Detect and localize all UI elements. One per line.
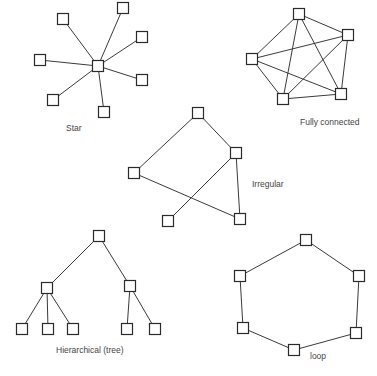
loop-label: loop xyxy=(310,352,326,361)
node-square xyxy=(137,32,148,43)
edge xyxy=(47,288,73,329)
node-square xyxy=(289,345,300,356)
edge xyxy=(22,288,47,329)
edge xyxy=(47,236,99,288)
node-square xyxy=(238,323,249,334)
edge xyxy=(294,333,356,350)
node-square xyxy=(94,231,105,242)
node-square xyxy=(58,14,69,25)
edge xyxy=(306,240,359,276)
node-square xyxy=(294,9,305,20)
node-square xyxy=(354,271,365,282)
edge xyxy=(168,153,236,221)
node-square xyxy=(336,89,347,100)
edge xyxy=(134,113,198,173)
irregular-label: Irregular xyxy=(252,180,284,189)
edge xyxy=(243,328,294,350)
edge xyxy=(53,66,98,100)
node-square xyxy=(125,281,136,292)
node-square xyxy=(247,54,258,65)
node-square xyxy=(42,283,53,294)
edge xyxy=(134,173,240,219)
network-topologies-figure: Star Fully connected Irregular Hierarchi… xyxy=(0,0,377,376)
node-square xyxy=(137,75,148,86)
edge xyxy=(47,288,48,329)
node-square xyxy=(343,30,354,41)
edge xyxy=(356,276,359,333)
node-square xyxy=(93,61,104,72)
node-square xyxy=(129,168,140,179)
edge xyxy=(98,66,142,80)
fully-connected-label: Fully connected xyxy=(300,118,360,127)
node-square xyxy=(235,214,246,225)
node-square xyxy=(163,216,174,227)
edge xyxy=(299,14,341,94)
node-square xyxy=(48,95,59,106)
node-square xyxy=(231,148,242,159)
node-square xyxy=(301,235,312,246)
node-square xyxy=(278,94,289,105)
loop-diagram xyxy=(235,235,365,356)
node-square xyxy=(235,271,246,282)
node-square xyxy=(150,324,161,335)
hierarchical-diagram xyxy=(17,231,161,335)
edge xyxy=(98,66,104,112)
edge xyxy=(252,35,348,59)
star-diagram xyxy=(35,3,148,118)
edge xyxy=(99,236,130,286)
irregular-diagram xyxy=(129,108,246,227)
edge xyxy=(127,286,130,329)
node-square xyxy=(118,3,129,14)
edge xyxy=(299,14,348,35)
topology-diagrams-svg xyxy=(0,0,377,376)
edge xyxy=(63,19,98,66)
node-square xyxy=(43,324,54,335)
star-label: Star xyxy=(66,124,82,133)
edge xyxy=(40,60,98,66)
node-square xyxy=(17,324,28,335)
edge xyxy=(240,240,306,276)
node-square xyxy=(68,324,79,335)
node-square xyxy=(122,324,133,335)
edge xyxy=(240,276,243,328)
edge xyxy=(130,286,155,329)
edge xyxy=(236,153,240,219)
node-square xyxy=(35,55,46,66)
node-square xyxy=(193,108,204,119)
hierarchical-tree-label: Hierarchical (tree) xyxy=(56,346,124,355)
node-square xyxy=(99,107,110,118)
edge xyxy=(283,94,341,99)
node-square xyxy=(351,328,362,339)
edge xyxy=(341,35,348,94)
fully-connected-diagram xyxy=(247,9,354,105)
